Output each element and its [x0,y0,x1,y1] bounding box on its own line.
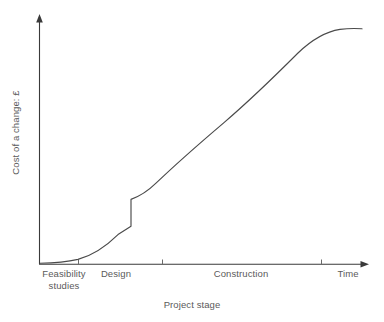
stage-label-line1: Design [101,268,131,279]
x-axis-stage-label-construction: Construction [192,268,290,280]
stage-label-line2: studies [49,280,80,291]
stage-label-line1: Time [337,268,358,279]
chart-figure: Cost of a change: £ Feasibility studies … [0,0,384,322]
x-axis-arrow-icon [361,261,370,267]
stage-label-line1: Construction [214,268,269,279]
y-axis-label: Cost of a change: £ [0,0,30,264]
y-axis-label-text: Cost of a change: £ [10,90,21,174]
stage-label-line1: Feasibility [42,268,85,279]
cost-of-change-curve [40,29,362,264]
x-axis-stage-label-time: Time [322,268,374,280]
x-axis-stage-label-design: Design [86,268,146,280]
x-axis-title: Project stage [0,299,384,310]
y-axis-arrow-icon [36,14,43,23]
